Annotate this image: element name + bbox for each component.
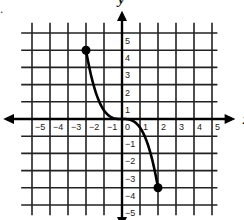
y-tick-label: 1 [125,105,130,115]
x-tick-label: −4 [53,122,63,132]
coordinate-plane: −5−4−3−2−101234554321−1−2−3−4−5xy [0,0,244,220]
endpoint-dot [82,46,91,55]
y-tick-label: −5 [125,208,135,218]
y-tick-label: −4 [125,191,135,201]
x-tick-label: −3 [71,122,81,132]
x-axis-left-arrow-icon [3,114,14,124]
x-tick-label: −5 [35,122,45,132]
y-tick-label: −3 [125,174,135,184]
y-axis-up-arrow-icon [117,11,127,21]
y-tick-label: −2 [125,156,135,166]
x-tick-label: 0 [125,122,130,132]
y-tick-label: −1 [125,139,135,149]
x-axis-label: x [242,111,244,127]
x-tick-label: 1 [143,122,148,132]
x-tick-label: 5 [215,122,220,132]
x-tick-label: −1 [107,122,117,132]
x-tick-label: 2 [161,122,166,132]
x-tick-label: 4 [197,122,202,132]
endpoint-dot [154,183,163,192]
y-axis-label: y [116,0,125,7]
x-tick-label: −2 [89,122,99,132]
x-tick-label: 3 [179,122,184,132]
x-axis-right-arrow-icon [225,114,236,124]
y-tick-label: 2 [125,88,130,98]
y-tick-label: 5 [125,36,130,46]
y-tick-label: 4 [125,53,130,63]
y-tick-label: 3 [125,70,130,80]
